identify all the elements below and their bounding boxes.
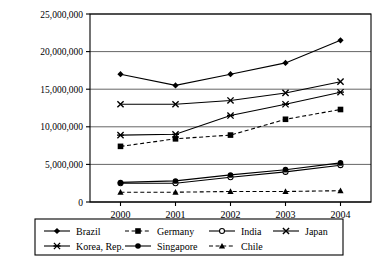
series-brazil	[117, 37, 343, 88]
legend-item-germany[interactable]: Germany	[125, 226, 194, 237]
legend-label: Chile	[241, 241, 263, 252]
legend-label: Brazil	[76, 226, 101, 237]
y-tick-label: 10,000,000	[40, 122, 83, 132]
marker-circle-filled	[283, 167, 289, 173]
marker-circle-filled	[135, 243, 141, 249]
marker-square	[283, 116, 289, 122]
marker-star	[227, 112, 234, 118]
legend-item-korea-rep[interactable]: Korea, Rep.	[44, 241, 124, 252]
series-line	[121, 40, 341, 85]
x-tick-label: 2004	[331, 209, 351, 220]
legend-item-japan[interactable]: Japan	[273, 226, 328, 237]
marker-star	[54, 243, 61, 249]
legend-label: India	[241, 226, 262, 237]
series-japan	[117, 79, 343, 108]
legend-item-india[interactable]: India	[209, 226, 262, 237]
marker-diamond	[282, 60, 288, 66]
marker-circle-open	[220, 229, 225, 234]
legend-item-chile[interactable]: Chile	[209, 241, 263, 252]
legend-label: Germany	[157, 226, 194, 237]
marker-square	[135, 228, 141, 234]
y-tick-label: 5,000,000	[45, 160, 83, 170]
x-tick-label: 2003	[276, 209, 296, 220]
y-tick-label: 0	[78, 198, 83, 208]
marker-diamond	[337, 37, 343, 43]
y-tick-label: 15,000,000	[40, 85, 83, 95]
marker-circle-filled	[118, 180, 124, 186]
marker-diamond	[117, 71, 123, 77]
series-singapore	[118, 160, 344, 185]
series-line	[121, 92, 341, 135]
legend-label: Korea, Rep.	[76, 241, 124, 252]
marker-circle-filled	[338, 160, 344, 166]
marker-star	[117, 132, 124, 138]
series-chile	[117, 188, 343, 195]
legend-item-singapore[interactable]: Singapore	[125, 241, 198, 252]
marker-star	[282, 101, 289, 107]
legend-item-brazil[interactable]: Brazil	[44, 226, 101, 237]
marker-circle-filled	[173, 178, 179, 184]
x-tick-label: 2001	[166, 209, 186, 220]
marker-diamond	[54, 228, 60, 234]
x-tick-label: 2000	[111, 209, 131, 220]
chart-container: 05,000,00010,000,00015,000,00020,000,000…	[0, 0, 378, 260]
y-tick-label: 25,000,000	[40, 10, 83, 20]
marker-diamond	[227, 71, 233, 77]
series-germany	[118, 107, 344, 149]
marker-square	[338, 107, 344, 113]
legend-label: Singapore	[157, 241, 198, 252]
marker-circle-filled	[228, 172, 234, 178]
line-chart: 05,000,00010,000,00015,000,00020,000,000…	[0, 0, 378, 260]
marker-square	[228, 132, 234, 138]
x-tick-label: 2002	[221, 209, 241, 220]
marker-square	[118, 144, 124, 150]
y-tick-label: 20,000,000	[40, 47, 83, 57]
series-korea-rep	[117, 89, 344, 138]
marker-diamond	[172, 82, 178, 88]
marker-star	[337, 89, 344, 95]
legend-label: Japan	[305, 226, 328, 237]
